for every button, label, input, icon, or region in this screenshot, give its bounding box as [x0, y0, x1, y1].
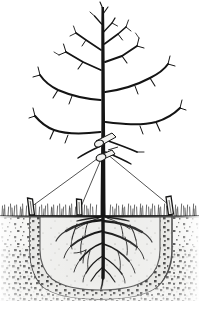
tree-staking-figure: Staking a newly planted tree: three guy … — [0, 0, 199, 313]
illustration-canvas — [0, 0, 199, 313]
ground-stake-center — [77, 199, 83, 215]
